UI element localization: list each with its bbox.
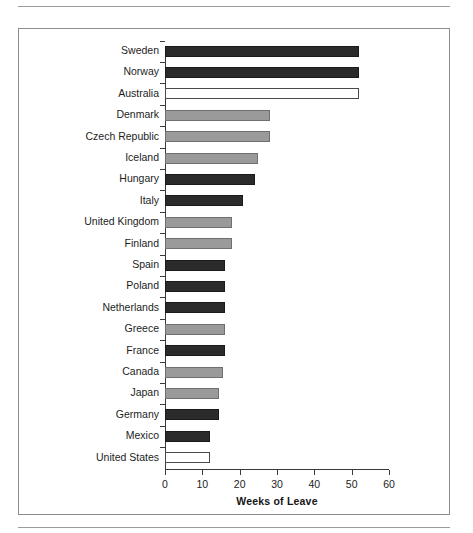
- bar: [165, 174, 255, 185]
- y-axis-tick: [160, 148, 165, 149]
- category-label: Finland: [19, 238, 159, 249]
- x-axis-tick: [165, 470, 166, 475]
- bar: [165, 88, 359, 99]
- y-axis-tick: [160, 41, 165, 42]
- category-label: Iceland: [19, 152, 159, 163]
- x-axis-title: Weeks of Leave: [165, 495, 389, 507]
- category-label: Hungary: [19, 173, 159, 184]
- bar: [165, 195, 243, 206]
- x-axis-tick-label: 10: [187, 478, 217, 490]
- bar: [165, 367, 223, 378]
- y-axis-tick: [160, 126, 165, 127]
- bar: [165, 260, 225, 271]
- x-axis-tick-label: 40: [299, 478, 329, 490]
- y-axis-tick: [160, 319, 165, 320]
- x-axis-tick-label: 0: [150, 478, 180, 490]
- chart-page: SwedenNorwayAustraliaDenmarkCzech Republ…: [0, 0, 473, 533]
- y-axis-tick: [160, 233, 165, 234]
- y-axis-tick: [160, 169, 165, 170]
- category-label: Japan: [19, 387, 159, 398]
- category-label: Denmark: [19, 109, 159, 120]
- x-axis-tick: [240, 470, 241, 475]
- x-axis-tick: [314, 470, 315, 475]
- y-axis-tick: [160, 426, 165, 427]
- bar: [165, 345, 225, 356]
- bar: [165, 131, 270, 142]
- plot-area: SwedenNorwayAustraliaDenmarkCzech Republ…: [19, 29, 451, 516]
- bar: [165, 324, 225, 335]
- x-axis-tick: [277, 470, 278, 475]
- x-axis-tick: [389, 470, 390, 475]
- x-axis-tick-label: 30: [262, 478, 292, 490]
- bar: [165, 153, 258, 164]
- x-axis-tick-label: 50: [337, 478, 367, 490]
- category-label: Italy: [19, 195, 159, 206]
- bar: [165, 46, 359, 57]
- y-axis-tick: [160, 362, 165, 363]
- y-axis-tick: [160, 383, 165, 384]
- category-label: Poland: [19, 280, 159, 291]
- y-axis-tick: [160, 404, 165, 405]
- y-axis-tick: [160, 276, 165, 277]
- bar: [165, 110, 270, 121]
- bar: [165, 409, 219, 420]
- chart-frame: SwedenNorwayAustraliaDenmarkCzech Republ…: [18, 28, 450, 515]
- y-axis-tick: [160, 105, 165, 106]
- y-axis-tick: [160, 62, 165, 63]
- category-label: Greece: [19, 323, 159, 334]
- x-axis-tick: [202, 470, 203, 475]
- y-axis-tick: [160, 190, 165, 191]
- category-label: Australia: [19, 88, 159, 99]
- bar: [165, 452, 210, 463]
- category-axis-labels: SwedenNorwayAustraliaDenmarkCzech Republ…: [19, 29, 163, 516]
- y-axis-tick: [160, 83, 165, 84]
- category-label: United Kingdom: [19, 216, 159, 227]
- x-axis-tick-label: 60: [374, 478, 404, 490]
- bar: [165, 302, 225, 313]
- top-divider-rule: [18, 6, 450, 7]
- bar: [165, 217, 232, 228]
- bar: [165, 431, 210, 442]
- y-axis-tick: [160, 212, 165, 213]
- category-label: United States: [19, 452, 159, 463]
- bar: [165, 281, 225, 292]
- x-axis-tick-label: 20: [225, 478, 255, 490]
- category-label: Germany: [19, 409, 159, 420]
- y-axis-tick: [160, 255, 165, 256]
- category-label: Sweden: [19, 45, 159, 56]
- category-label: Netherlands: [19, 302, 159, 313]
- category-label: France: [19, 345, 159, 356]
- y-axis-tick: [160, 297, 165, 298]
- y-axis-tick: [160, 340, 165, 341]
- category-label: Mexico: [19, 430, 159, 441]
- category-label: Czech Republic: [19, 131, 159, 142]
- x-axis-tick: [352, 470, 353, 475]
- category-label: Canada: [19, 366, 159, 377]
- bars-layer: [165, 29, 451, 516]
- category-label: Spain: [19, 259, 159, 270]
- category-label: Norway: [19, 66, 159, 77]
- bar: [165, 388, 219, 399]
- bottom-divider-rule: [18, 527, 450, 528]
- bar: [165, 67, 359, 78]
- bar: [165, 238, 232, 249]
- y-axis-tick: [160, 447, 165, 448]
